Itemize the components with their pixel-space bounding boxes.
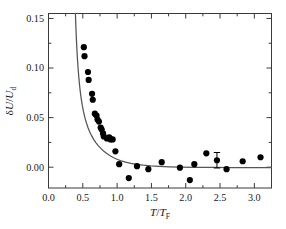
figure-container: 0.00.51.01.52.02.53.0 0.000.050.100.15 T… [0, 0, 286, 229]
x-tick-label: 3.0 [248, 192, 261, 203]
data-point [134, 163, 140, 169]
x-tick-label: 2.0 [179, 192, 192, 203]
data-point [110, 136, 116, 142]
data-point [81, 53, 87, 59]
data-point [85, 69, 91, 75]
y-tick-label: 0.05 [26, 112, 44, 123]
data-point [159, 159, 165, 165]
data-point [257, 154, 263, 160]
scatter-plot: 0.00.51.01.52.02.53.0 0.000.050.100.15 T… [0, 0, 286, 229]
data-point [203, 150, 209, 156]
y-tick-label: 0.10 [26, 62, 44, 73]
data-point [223, 166, 229, 172]
x-tick-label: 1.0 [111, 192, 124, 203]
data-point [90, 97, 96, 103]
x-tick-label: 1.5 [145, 192, 158, 203]
x-tick-label: 0.5 [76, 192, 89, 203]
data-point [177, 165, 183, 171]
data-point [240, 158, 246, 164]
data-point [89, 91, 95, 97]
data-point [112, 148, 118, 154]
data-point [145, 166, 151, 172]
y-tick-label: 0.15 [26, 13, 44, 24]
data-point [86, 77, 92, 83]
x-tick-label: 0.0 [42, 192, 55, 203]
data-point [187, 177, 193, 183]
data-point [81, 44, 87, 50]
data-point [191, 161, 197, 167]
data-point [116, 161, 122, 167]
x-tick-label: 2.5 [214, 192, 227, 203]
y-tick-label: 0.00 [26, 162, 44, 173]
data-point [96, 118, 102, 124]
data-point [126, 175, 132, 181]
